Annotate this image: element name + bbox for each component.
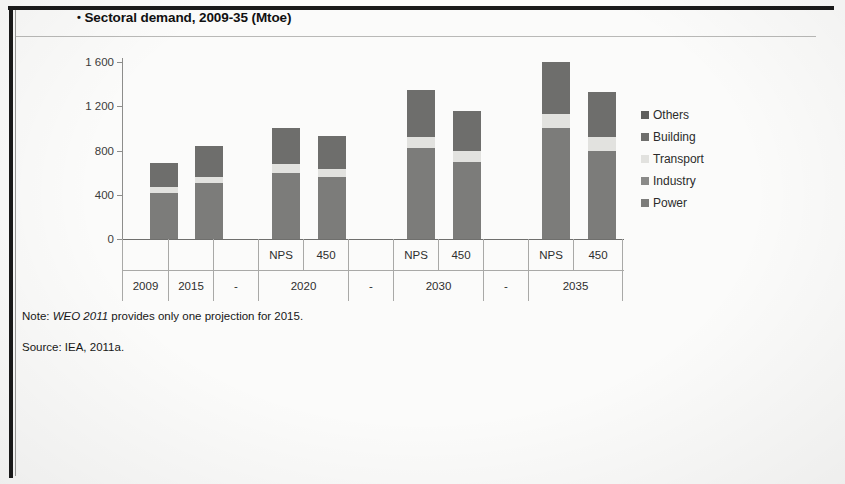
bar-segment-transport xyxy=(453,151,481,162)
y-axis-tick-mark xyxy=(117,106,123,107)
legend-swatch-icon xyxy=(641,177,649,185)
y-axis-labels: 1 6001 2008004000 xyxy=(62,62,114,239)
x-axis-scenario-cell: 450 xyxy=(438,239,483,270)
legend-label: Industry xyxy=(653,174,696,188)
figure-title: • Sectoral demand, 2009-35 (Mtoe) xyxy=(77,10,291,25)
bar-2015 xyxy=(195,146,223,239)
bar-segment-power xyxy=(453,162,481,239)
chart-legend: OthersBuildingTransportIndustryPower xyxy=(641,104,761,214)
y-axis-tick-mark xyxy=(117,195,123,196)
legend-item-transport: Transport xyxy=(641,148,761,170)
legend-item-power: Power xyxy=(641,192,761,214)
x-axis-year-cell: - xyxy=(213,270,258,301)
bar-2030-NPS xyxy=(407,90,435,239)
bar-segment-transport xyxy=(407,137,435,149)
page-left-hairline xyxy=(15,10,16,476)
x-axis-scenario-cell xyxy=(168,239,213,270)
bar-segment-transport xyxy=(195,177,223,184)
bar-segment-transport xyxy=(542,114,570,128)
bar-segment-power xyxy=(272,173,300,239)
bar-segment-building xyxy=(407,90,435,137)
bar-2009 xyxy=(150,163,178,239)
bar-segment-building xyxy=(453,111,481,151)
scanned-page: • Sectoral demand, 2009-35 (Mtoe) 1 6001… xyxy=(0,0,845,484)
x-axis-year-cell: 2020 xyxy=(258,270,348,301)
note-rest: provides only one projection for 2015. xyxy=(108,310,303,322)
bar-segment-power xyxy=(407,148,435,239)
bar-2035-NPS xyxy=(542,62,570,239)
x-axis-scenario-cell: NPS xyxy=(528,239,573,270)
x-axis-scenario-cell xyxy=(348,239,393,270)
legend-swatch-icon xyxy=(641,199,649,207)
figure-source: Source: IEA, 2011a. xyxy=(22,341,124,353)
bar-segment-transport xyxy=(272,164,300,172)
y-axis-tick-label: 1 600 xyxy=(85,56,114,68)
x-axis-year-cell: - xyxy=(483,270,528,301)
bar-segment-building xyxy=(150,163,178,187)
x-axis-scenario-cell: 450 xyxy=(573,239,623,270)
y-axis-tick-mark xyxy=(117,151,123,152)
bar-segment-transport xyxy=(588,137,616,150)
legend-swatch-icon xyxy=(641,133,649,141)
bar-2020-450 xyxy=(318,136,346,239)
x-axis-table: NPS450NPS450NPS450 20092015-2020-2030-20… xyxy=(122,239,624,301)
bar-segment-power xyxy=(195,183,223,239)
bar-2020-NPS xyxy=(272,128,300,239)
x-axis-scenario-cell: NPS xyxy=(258,239,303,270)
legend-label: Others xyxy=(653,108,689,122)
bar-segment-building xyxy=(272,128,300,165)
note-italic-title: WEO 2011 xyxy=(53,310,108,322)
bar-segment-power xyxy=(588,151,616,240)
bar-2030-450 xyxy=(453,111,481,239)
y-axis-tick-label: 1 200 xyxy=(85,100,114,112)
x-axis-year-cell: 2035 xyxy=(528,270,623,301)
legend-swatch-icon xyxy=(641,111,649,119)
bar-segment-building xyxy=(318,136,346,169)
bar-segment-power xyxy=(318,177,346,239)
legend-item-industry: Industry xyxy=(641,170,761,192)
bar-segment-power xyxy=(150,193,178,239)
bar-segment-building xyxy=(195,146,223,176)
bar-segment-building xyxy=(542,62,570,114)
y-axis-tick-mark xyxy=(117,62,123,63)
figure-note: Note: WEO 2011 provides only one project… xyxy=(22,310,303,322)
y-axis-tick-label: 400 xyxy=(95,189,114,201)
x-axis-year-cell: 2015 xyxy=(168,270,213,301)
legend-swatch-icon xyxy=(641,155,649,163)
legend-label: Building xyxy=(653,130,696,144)
legend-item-others: Others xyxy=(641,104,761,126)
plot-area xyxy=(122,62,622,239)
x-axis-scenario-cell xyxy=(213,239,258,270)
x-axis-year-cell: 2030 xyxy=(393,270,483,301)
bar-segment-transport xyxy=(318,169,346,177)
y-axis-tick-label: 0 xyxy=(108,233,114,245)
x-axis-year-row: 20092015-2020-2030-2035 xyxy=(122,270,624,301)
figure-title-text: Sectoral demand, 2009-35 (Mtoe) xyxy=(84,10,291,25)
bar-segment-building xyxy=(588,92,616,137)
x-axis-scenario-cell xyxy=(483,239,528,270)
x-axis-scenario-row: NPS450NPS450NPS450 xyxy=(122,239,624,270)
x-axis-year-cell: 2009 xyxy=(122,270,168,301)
legend-item-building: Building xyxy=(641,126,761,148)
y-axis-tick-label: 800 xyxy=(95,145,114,157)
page-left-rule xyxy=(9,6,13,478)
bullet-icon: • xyxy=(77,11,81,23)
legend-label: Power xyxy=(653,196,687,210)
note-prefix: Note: xyxy=(22,310,53,322)
title-underline xyxy=(16,36,816,37)
bar-2035-450 xyxy=(588,92,616,239)
legend-label: Transport xyxy=(653,152,704,166)
x-axis-scenario-cell xyxy=(122,239,168,270)
x-axis-year-cell: - xyxy=(348,270,393,301)
bar-segment-power xyxy=(542,128,570,239)
x-axis-scenario-cell: 450 xyxy=(303,239,348,270)
x-axis-scenario-cell: NPS xyxy=(393,239,438,270)
